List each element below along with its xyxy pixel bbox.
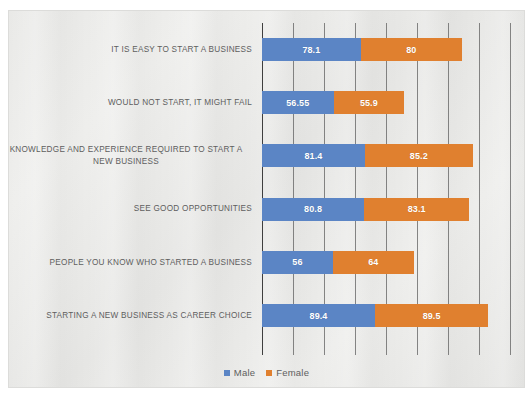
category-label: KNOWLEDGE AND EXPERIENCE REQUIRED TO STA… (8, 144, 252, 167)
bar-value-label: 78.1 (302, 45, 320, 55)
bar-row[interactable]: 89.489.5 (262, 304, 488, 327)
bar-segment-female[interactable]: 80 (361, 38, 462, 61)
bar-row[interactable]: 80.883.1 (262, 198, 469, 221)
bar-row[interactable]: 56.5555.9 (262, 91, 404, 114)
square-icon (224, 370, 230, 376)
bar-value-label: 55.9 (360, 98, 378, 108)
bar-value-label: 80 (406, 45, 416, 55)
bar-value-label: 85.2 (410, 151, 428, 161)
legend-item-female[interactable]: Female (266, 367, 309, 378)
bar-segment-female[interactable]: 85.2 (365, 144, 473, 167)
bar-value-label: 64 (368, 257, 378, 267)
bar-value-label: 89.4 (310, 311, 328, 321)
bar-segment-male[interactable]: 56.55 (262, 91, 334, 114)
bar-segment-male[interactable]: 56 (262, 251, 333, 274)
bar-value-label: 81.4 (305, 151, 323, 161)
bar-row[interactable]: 5664 (262, 251, 414, 274)
bar-value-label: 80.8 (304, 204, 322, 214)
bar-segment-male[interactable]: 89.4 (262, 304, 375, 327)
category-label: STARTING A NEW BUSINESS AS CAREER CHOICE (8, 310, 252, 322)
category-label: PEOPLE YOU KNOW WHO STARTED A BUSINESS (8, 257, 252, 269)
legend-label: Male (234, 367, 255, 378)
legend-label: Female (276, 367, 309, 378)
bar-value-label: 56 (292, 257, 302, 267)
chart-panel: 78.18056.5555.981.485.280.883.1566489.48… (8, 10, 525, 388)
bar-segment-female[interactable]: 83.1 (364, 198, 469, 221)
bar-segment-male[interactable]: 80.8 (262, 198, 364, 221)
category-label: SEE GOOD OPPORTUNITIES (8, 203, 252, 215)
category-label: WOULD NOT START, IT MIGHT FAIL (8, 97, 252, 109)
bar-segment-female[interactable]: 64 (333, 251, 414, 274)
gridline (510, 23, 511, 355)
legend-item-male[interactable]: Male (224, 367, 255, 378)
bar-segment-female[interactable]: 89.5 (375, 304, 488, 327)
category-label: IT IS EASY TO START A BUSINESS (8, 44, 252, 56)
bar-value-label: 89.5 (423, 311, 441, 321)
square-icon (266, 370, 272, 376)
bar-segment-male[interactable]: 78.1 (262, 38, 361, 61)
plot-area: 78.18056.5555.981.485.280.883.1566489.48… (262, 23, 510, 355)
bar-segment-male[interactable]: 81.4 (262, 144, 365, 167)
bar-segment-female[interactable]: 55.9 (334, 91, 405, 114)
bar-value-label: 83.1 (408, 204, 426, 214)
bar-row[interactable]: 78.180 (262, 38, 462, 61)
bar-row[interactable]: 81.485.2 (262, 144, 473, 167)
chart-legend: MaleFemale (9, 367, 524, 378)
bar-value-label: 56.55 (286, 98, 309, 108)
